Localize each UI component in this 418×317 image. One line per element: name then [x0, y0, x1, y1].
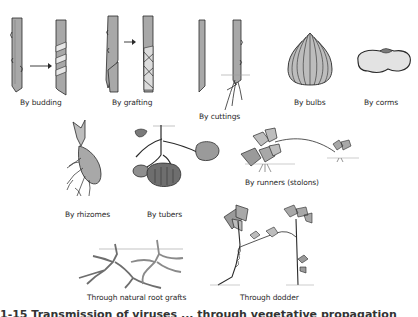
- label-budding: By budding: [20, 98, 62, 107]
- panel-corms: By corms: [350, 25, 418, 110]
- caption-text: 1-15 Transmission of viruses ... through…: [0, 308, 397, 317]
- panel-tubers: By tubers: [125, 125, 225, 215]
- label-rhizomes: By rhizomes: [65, 210, 110, 219]
- tuber-illustration: [125, 125, 225, 215]
- panel-bulbs: By bulbs: [280, 25, 340, 110]
- panel-root-grafts: Through natural root grafts: [75, 240, 195, 300]
- label-bulbs: By bulbs: [294, 98, 325, 107]
- figure-caption-partial: 1-15 Transmission of viruses ... through…: [0, 305, 418, 317]
- cuttings-illustration: [195, 0, 270, 125]
- label-grafting: By grafting: [112, 98, 152, 107]
- budding-illustration: [0, 0, 100, 110]
- dodder-illustration: [210, 205, 320, 300]
- label-runners: By runners (stolons): [245, 178, 319, 187]
- label-cuttings: By cuttings: [199, 112, 240, 121]
- panel-budding: By budding: [0, 0, 100, 110]
- root-grafts-illustration: [75, 240, 195, 300]
- panel-rhizomes: By rhizomes: [55, 118, 115, 213]
- label-corms: By corms: [364, 98, 398, 107]
- rhizome-illustration: [55, 118, 115, 213]
- label-root-grafts: Through natural root grafts: [87, 293, 186, 302]
- panel-cuttings: By cuttings: [195, 0, 270, 125]
- runners-illustration: [235, 128, 375, 203]
- panel-runners: By runners (stolons): [235, 128, 375, 203]
- panel-grafting: By grafting: [100, 0, 200, 110]
- panel-dodder: Through dodder: [210, 205, 320, 300]
- grafting-illustration: [100, 0, 200, 110]
- label-dodder: Through dodder: [240, 293, 299, 302]
- label-tubers: By tubers: [147, 210, 182, 219]
